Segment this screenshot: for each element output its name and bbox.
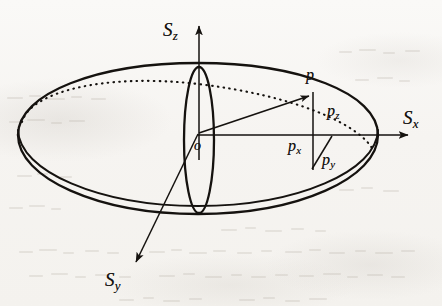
vector-op <box>199 96 309 133</box>
axis-y-label: Sy <box>105 270 120 293</box>
ellipsoid-upper-outline <box>18 63 378 135</box>
origin-label: o <box>194 139 201 153</box>
point-p-label: p <box>306 67 314 83</box>
component-px-label: px <box>288 138 301 156</box>
component-py-label: py <box>322 152 335 170</box>
component-pz-label: pz <box>327 103 339 121</box>
axis-x-label: Sx <box>403 108 418 131</box>
axis-z-label: Sz <box>163 20 178 43</box>
figure-page: Sz Sx Sy o p pz px py <box>0 0 442 306</box>
coordinate-axes <box>136 26 408 262</box>
ellipsoid-diagram <box>0 0 442 306</box>
